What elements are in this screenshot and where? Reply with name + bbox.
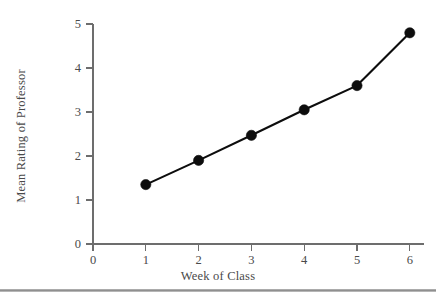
x-axis-ticks: [93, 244, 410, 251]
y-tick-label: 4: [75, 62, 81, 75]
footer-divider: [0, 289, 436, 292]
y-tick-label: 3: [75, 106, 81, 119]
axes-group: [93, 24, 424, 244]
y-tick-label: 1: [75, 194, 81, 207]
y-tick-label: 0: [75, 238, 81, 251]
x-tick-label: 1: [143, 254, 149, 267]
x-tick-label: 0: [90, 254, 96, 267]
plot-area: [0, 0, 436, 298]
figure-container: 012345 0123456 Mean Rating of Professor …: [0, 0, 436, 298]
x-tick-label: 6: [407, 254, 413, 267]
x-axis-title: Week of Class: [0, 269, 436, 284]
y-axis-ticks: [86, 24, 93, 244]
data-point-marker: [352, 81, 362, 91]
x-tick-label: 4: [301, 254, 307, 267]
x-tick-label: 5: [354, 254, 360, 267]
data-point-marker: [194, 155, 204, 165]
data-point-marker: [246, 130, 256, 140]
y-axis-title: Mean Rating of Professor: [14, 56, 32, 216]
data-point-marker: [405, 28, 415, 38]
y-tick-label: 2: [75, 150, 81, 163]
series-line-mean-rating: [146, 33, 410, 185]
x-tick-label: 2: [195, 254, 201, 267]
data-point-marker: [299, 105, 309, 115]
y-tick-label: 5: [75, 18, 81, 31]
series-markers: [141, 28, 415, 190]
data-point-marker: [141, 180, 151, 190]
x-tick-label: 3: [248, 254, 254, 267]
